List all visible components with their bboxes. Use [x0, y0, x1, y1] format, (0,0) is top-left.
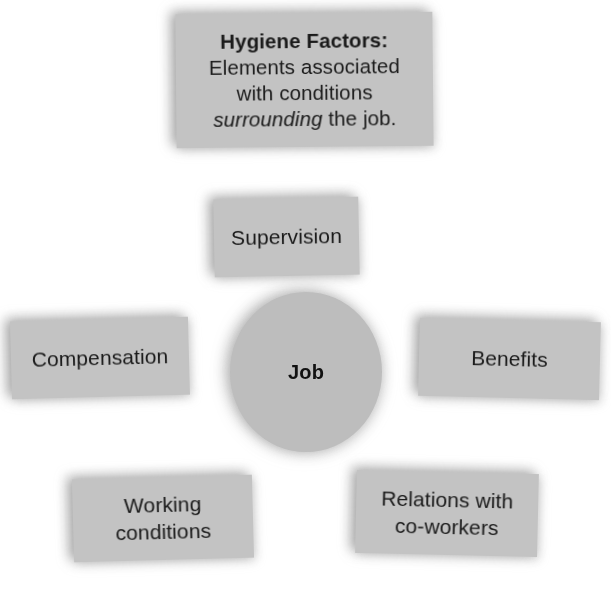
hygiene-factors-line-3-rest: the job.: [323, 106, 397, 130]
factor-box-benefits: Benefits: [418, 318, 601, 400]
diagram-canvas: Hygiene Factors: Elements associated wit…: [0, 0, 611, 595]
factor-label-benefits: Benefits: [419, 343, 601, 374]
center-circle-label: Job: [288, 361, 324, 384]
hygiene-factors-title: Hygiene Factors:: [182, 26, 427, 55]
factor-label-working-conditions-line-1: Working: [124, 492, 202, 517]
hygiene-factors-line-2: with conditions: [182, 79, 427, 108]
factor-label-compensation: Compensation: [11, 342, 190, 374]
hygiene-factors-line-3: surrounding the job.: [182, 105, 427, 134]
factor-label-working-conditions-line-2: conditions: [115, 518, 211, 543]
factor-box-supervision: Supervision: [213, 197, 359, 278]
factor-box-compensation: Compensation: [10, 317, 190, 400]
factor-label-relations-line-1: Relations with: [381, 486, 514, 512]
hygiene-factors-header-box: Hygiene Factors: Elements associated wit…: [175, 12, 433, 148]
hygiene-factors-emphasis: surrounding: [213, 107, 323, 131]
factor-box-relations-with-co-workers: Relations withco-workers: [355, 470, 539, 557]
factor-label-relations-with-co-workers: Relations withco-workers: [355, 485, 538, 543]
hygiene-factors-header-text: Hygiene Factors: Elements associated wit…: [176, 26, 434, 133]
center-circle-job: Job: [230, 292, 382, 452]
factor-label-supervision: Supervision: [214, 222, 359, 252]
factor-box-working-conditions: Workingconditions: [72, 475, 254, 563]
hygiene-factors-line-1: Elements associated: [182, 53, 427, 82]
factor-label-relations-line-2: co-workers: [395, 513, 499, 538]
factor-label-working-conditions: Workingconditions: [72, 489, 253, 547]
